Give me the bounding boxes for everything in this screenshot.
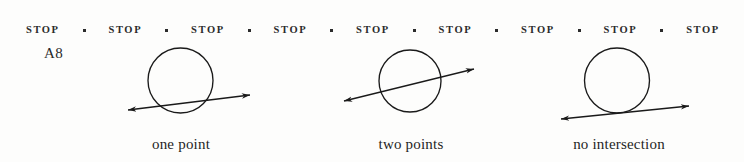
panel-caption-two-points: two points xyxy=(340,136,482,153)
panel-caption-one-point: one point xyxy=(110,136,252,153)
panel-one-point xyxy=(128,48,250,113)
line-shape-two-points xyxy=(344,69,474,101)
circle-shape-no-intersection xyxy=(585,48,650,113)
panel-no-intersection xyxy=(561,48,689,119)
circle-shape-two-points xyxy=(379,50,441,112)
line-shape-one-point xyxy=(128,95,250,110)
line-shape-no-intersection xyxy=(561,106,689,119)
panel-caption-no-intersection: no intersection xyxy=(528,136,710,153)
panel-two-points xyxy=(344,50,474,112)
figure-page: STOP STOP STOP STOP STOP STOP STOP STOP … xyxy=(0,0,744,162)
